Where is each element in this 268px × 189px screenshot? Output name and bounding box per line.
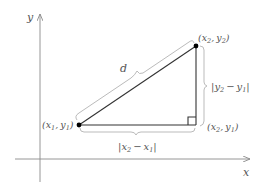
point-3-label: (x2,y1) [207, 121, 239, 134]
hypotenuse-line [79, 46, 196, 125]
point-2-label: (x2,y2) [198, 32, 230, 45]
hypotenuse-label: d [120, 62, 127, 75]
y-axis-label: y [26, 11, 34, 24]
horizontal-brace [80, 128, 195, 135]
point-2 [194, 44, 199, 49]
x-axis-label: x [243, 166, 250, 179]
point-1 [77, 123, 82, 128]
hypotenuse-brace [76, 41, 194, 120]
right-angle-marker [188, 117, 196, 125]
horizontal-distance-label: |x2−x1| [118, 141, 157, 154]
distance-formula-diagram: x y d (x1,y1) (x2,y2) (x2,y1) |y2−y1| |x… [0, 0, 268, 189]
vertical-brace [200, 46, 207, 126]
vertical-distance-label: |y2−y1| [211, 81, 250, 94]
point-1-label: (x1,y1) [42, 119, 74, 132]
